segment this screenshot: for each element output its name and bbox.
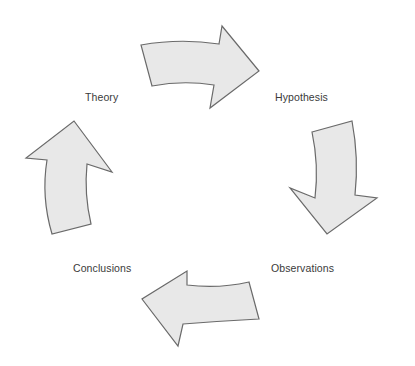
stage-label-observations: Observations [271,262,334,274]
arrow-observations-to-conclusions [142,271,259,346]
stage-label-conclusions: Conclusions [73,262,131,274]
stage-label-theory: Theory [85,91,118,103]
cycle-diagram [0,0,415,366]
stage-label-hypothesis: Hypothesis [275,91,328,103]
arrow-conclusions-to-theory [26,121,112,234]
arrow-hypothesis-to-observations [290,121,377,234]
arrow-theory-to-hypothesis [141,26,259,108]
